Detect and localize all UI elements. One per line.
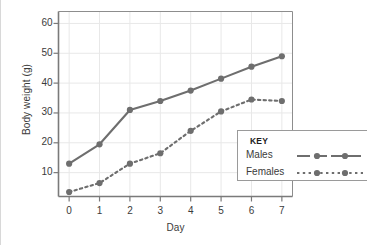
x-tick-label: 4 xyxy=(183,205,199,216)
data-point-females-3 xyxy=(157,150,163,156)
data-point-males-4 xyxy=(188,87,194,93)
data-point-males-1 xyxy=(96,141,102,147)
x-tick-label: 0 xyxy=(61,205,77,216)
y-tick-label: 60 xyxy=(27,17,53,28)
legend-swatch-females-icon xyxy=(295,165,365,181)
data-point-males-6 xyxy=(248,64,254,70)
y-tick-label: 50 xyxy=(27,47,53,58)
x-tick-label: 3 xyxy=(152,205,168,216)
x-tick-label: 2 xyxy=(122,205,138,216)
data-point-females-1 xyxy=(96,180,102,186)
data-point-females-2 xyxy=(127,161,133,167)
y-tick-label: 40 xyxy=(27,77,53,88)
data-point-males-0 xyxy=(66,161,72,167)
data-point-males-2 xyxy=(127,107,133,113)
data-point-females-5 xyxy=(218,108,224,114)
x-tick-label: 5 xyxy=(213,205,229,216)
x-tick-label: 6 xyxy=(243,205,259,216)
data-point-males-7 xyxy=(279,53,285,59)
y-tick-label: 30 xyxy=(27,106,53,117)
data-point-females-6 xyxy=(248,96,254,102)
legend-label-females: Females xyxy=(246,166,284,177)
x-axis-title: Day xyxy=(58,222,293,233)
data-point-females-4 xyxy=(188,128,194,134)
legend-swatch-males-icon xyxy=(295,148,365,164)
y-tick-label: 20 xyxy=(27,136,53,147)
x-tick-label: 7 xyxy=(274,205,290,216)
legend-title: KEY xyxy=(250,136,268,146)
x-tick-label: 1 xyxy=(92,205,108,216)
legend-label-males: Males xyxy=(246,149,273,160)
data-point-males-3 xyxy=(157,98,163,104)
legend-key-box: KEY Males Females xyxy=(237,130,367,181)
chart-figure: Body weight (g) Day 102030405060 0123456… xyxy=(0,0,367,245)
y-tick-label: 10 xyxy=(27,166,53,177)
data-point-females-7 xyxy=(279,98,285,104)
data-point-males-5 xyxy=(218,76,224,82)
legend-item-males: Males xyxy=(238,148,367,164)
data-point-females-0 xyxy=(66,189,72,195)
legend-item-females: Females xyxy=(238,165,367,181)
